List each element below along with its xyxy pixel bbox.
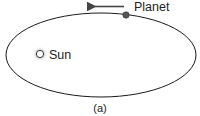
caption: (a) xyxy=(93,102,106,114)
orbit-diagram: Planet Sun (a) xyxy=(0,0,200,116)
sun-label: Sun xyxy=(49,48,71,62)
planet-icon xyxy=(123,12,129,18)
sun-icon xyxy=(36,50,43,57)
planet-label: Planet xyxy=(134,0,170,14)
